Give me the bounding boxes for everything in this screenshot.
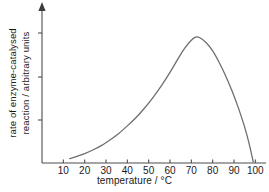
chart-plot-area (0, 0, 269, 192)
x-tick-label: 100 (247, 165, 264, 176)
y-axis-title-line1: rate of enzyme-catalysed (6, 28, 19, 138)
y-axis-title: rate of enzyme-catalysed reaction / arbi… (2, 0, 36, 165)
x-tick-label: 60 (164, 165, 175, 176)
x-tick-label: 90 (228, 165, 239, 176)
x-tick-label: 10 (58, 165, 69, 176)
enzyme-rate-temperature-chart: rate of enzyme-catalysed reaction / arbi… (0, 0, 269, 192)
rate-curve (70, 37, 253, 162)
x-tick-label: 50 (143, 165, 154, 176)
x-tick-label: 40 (122, 165, 133, 176)
y-axis-arrow-icon (38, 2, 45, 11)
x-axis-title: temperature / °C (0, 175, 269, 186)
y-axis-ticks (38, 33, 42, 120)
x-tick-label: 80 (207, 165, 218, 176)
y-axis-title-line2: reaction / arbitrary units (19, 28, 32, 138)
x-tick-label: 70 (186, 165, 197, 176)
x-tick-label: 20 (79, 165, 90, 176)
x-tick-label: 30 (100, 165, 111, 176)
